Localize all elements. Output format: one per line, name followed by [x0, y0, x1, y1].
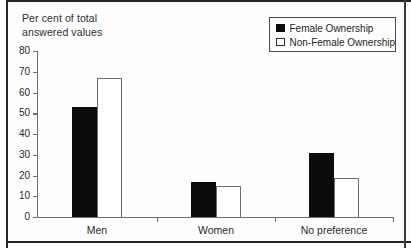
y-tick-label: 0	[6, 211, 30, 223]
legend-label: Non-Female Ownership	[290, 37, 396, 48]
y-tick-label: 20	[6, 170, 30, 182]
y-axis-caption: Per cent of total answered values	[22, 12, 102, 39]
bar-female-ownership-men	[72, 107, 97, 217]
y-axis-tick	[33, 196, 38, 197]
x-category-label: No preference	[279, 224, 389, 236]
filled-square-swatch-icon	[276, 24, 285, 33]
y-tick-label: 10	[6, 190, 30, 202]
y-axis-tick	[33, 72, 38, 73]
y-axis-tick	[33, 113, 38, 114]
y-tick-label: 30	[6, 149, 30, 161]
y-tick-label: 80	[6, 45, 30, 57]
y-tick-label: 40	[6, 128, 30, 140]
y-tick-label: 60	[6, 87, 30, 99]
y-axis-tick	[33, 51, 38, 52]
y-axis-tick	[33, 93, 38, 94]
y-axis-tick	[33, 155, 38, 156]
frame-right-rule	[404, 0, 406, 248]
x-axis-tick	[275, 217, 276, 222]
x-axis-tick	[393, 217, 394, 222]
x-category-label: Women	[161, 224, 271, 236]
x-axis-tick	[157, 217, 158, 222]
frame-top-rule	[6, 0, 411, 2]
y-axis-tick	[33, 217, 38, 218]
bar-non-female-ownership-no-preference	[334, 178, 359, 217]
legend-label: Female Ownership	[290, 23, 374, 34]
bar-non-female-ownership-women	[216, 186, 241, 217]
y-tick-label: 70	[6, 66, 30, 78]
legend-item-female-ownership: Female Ownership	[276, 22, 391, 35]
figure-scan: Per cent of total answered values Female…	[0, 0, 411, 248]
outlined-square-swatch-icon	[276, 38, 285, 47]
y-axis-caption-line2: answered values	[22, 26, 102, 40]
y-tick-label: 50	[6, 107, 30, 119]
y-axis-line	[37, 51, 38, 218]
x-category-label: Men	[42, 224, 152, 236]
bar-non-female-ownership-men	[97, 78, 122, 217]
chart-legend: Female Ownership Non-Female Ownership	[269, 17, 396, 52]
y-axis-tick	[33, 134, 38, 135]
bar-female-ownership-women	[191, 182, 216, 217]
frame-bottom-rule	[6, 241, 411, 243]
bar-female-ownership-no-preference	[309, 153, 334, 217]
x-axis-line	[37, 217, 394, 218]
y-axis-tick	[33, 176, 38, 177]
legend-item-non-female-ownership: Non-Female Ownership	[276, 36, 391, 49]
y-axis-caption-line1: Per cent of total	[22, 12, 102, 26]
